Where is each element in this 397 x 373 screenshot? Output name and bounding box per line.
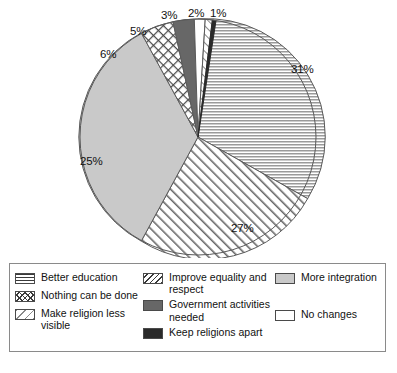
legend-label: More integration [301,271,377,283]
pie-chart-plot-area: 31% 27% 25% 6% 5% 3% 2% 1% [0,0,397,258]
legend-label: Nothing can be done [41,289,138,301]
legend-item-better-education: Better education [15,271,143,286]
legend-swatch-thin-diagonals-icon [15,309,35,320]
pie-value-label-improve-equality: 27% [231,222,253,234]
pie-value-label-government-activities: 5% [130,25,146,37]
legend-swatch-horizontal-lines-icon [15,273,35,284]
legend-item-keep-religions-apart: Keep religions apart [143,326,271,341]
legend-label: Improve equality and respect [169,271,271,295]
legend-item-more-integration: More integration [275,271,387,286]
pie-value-label-more-integration: 25% [80,155,102,167]
pie-value-label-better-education: 31% [291,63,313,75]
legend-swatch-dark-gray-icon [143,300,163,311]
legend-swatch-black-icon [143,328,163,339]
legend-column-3: More integration No changes [275,271,387,326]
legend-label: Make religion less visible [41,307,143,331]
pie-chart-figure: 31% 27% 25% 6% 5% 3% 2% 1% Better educat… [0,0,397,373]
legend-label: Better education [41,271,117,283]
legend-swatch-white-icon [275,310,295,321]
legend-label: Government activities needed [169,298,271,322]
pie-value-label-nothing-can-be-done: 6% [100,48,116,60]
legend-column-2: Improve equality and respect Government … [143,271,271,344]
pie-value-label-make-religion-less-visible: 2% [188,7,204,19]
pie-value-label-keep-religions-apart: 1% [210,7,226,19]
legend-item-nothing-can-be-done: Nothing can be done [15,289,143,304]
legend-item-no-changes: No changes [275,308,387,323]
legend-item-improve-equality: Improve equality and respect [143,271,271,295]
legend-label: Keep religions apart [169,326,262,338]
pie-value-label-no-changes: 3% [161,9,177,21]
legend-label: No changes [301,308,357,320]
legend-swatch-cross-hatch-icon [15,291,35,302]
legend-column-1: Better education Nothing can be done Mak… [15,271,143,334]
legend-item-make-religion-less-visible: Make religion less visible [15,307,143,331]
legend-swatch-light-gray-icon [275,273,295,284]
chart-legend: Better education Nothing can be done Mak… [9,263,386,352]
legend-item-government-activities: Government activities needed [143,298,271,322]
pie-chart-svg [0,0,397,258]
legend-swatch-diagonal-stripes-icon [143,273,163,284]
